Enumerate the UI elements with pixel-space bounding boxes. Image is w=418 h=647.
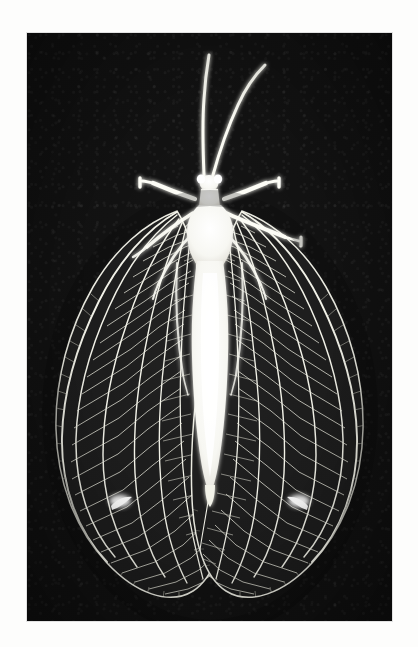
photographic-plate <box>27 33 392 621</box>
antennae <box>203 55 265 175</box>
eye-left <box>197 174 205 183</box>
specimen-illustration <box>27 33 392 621</box>
thorax <box>187 205 233 265</box>
antenna-right <box>213 65 265 175</box>
antenna-left <box>203 55 209 175</box>
eye-right <box>214 174 222 183</box>
lacewing-specimen <box>27 33 392 621</box>
head <box>197 174 222 191</box>
page-canvas <box>0 0 418 647</box>
